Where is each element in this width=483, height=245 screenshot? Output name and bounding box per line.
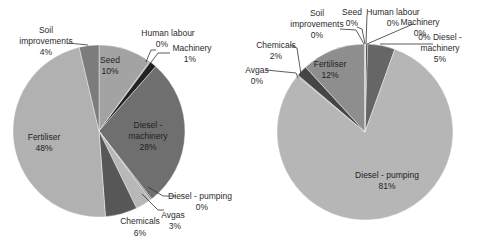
pie-slices xyxy=(277,44,453,220)
data-label-diesel-machinery: 0% Diesel -machinery5% xyxy=(418,32,462,64)
data-value-chemicals: 6% xyxy=(134,228,147,238)
data-label-chemicals: Chemicals xyxy=(120,216,160,226)
data-value-diesel-pumping: 0% xyxy=(196,202,209,212)
leader-line-avgas xyxy=(266,70,298,78)
data-label-machinery: Machinery xyxy=(172,43,212,53)
data-label-seed: Seed10% xyxy=(100,55,120,76)
data-label-seed: Seed0% xyxy=(342,7,362,28)
data-label-chemicals: Chemicals2% xyxy=(256,40,296,61)
data-value-human-labour: 0% xyxy=(156,39,169,49)
pie-charts-canvas: Seed10%Human labour0%Machinery1%Diesel -… xyxy=(0,0,483,245)
data-label-soil-improvements: Soilimprovements0% xyxy=(290,8,343,40)
pie-chart-right: Seed0%Human labour0%Machinery0%0% Diesel… xyxy=(245,7,462,220)
pie-chart-left: Seed10%Human labour0%Machinery1%Diesel -… xyxy=(13,25,232,238)
leader-line-soil-improvements xyxy=(340,29,364,44)
data-value-avgas: 3% xyxy=(169,221,182,231)
leader-line-seed xyxy=(357,27,365,44)
leader-line-human-labour xyxy=(366,15,367,44)
chart-figure: Seed10%Human labour0%Machinery1%Diesel -… xyxy=(0,0,483,245)
data-label-avgas: Avgas xyxy=(161,210,184,220)
data-label-diesel-pumping: Diesel - pumping xyxy=(168,191,232,201)
data-label-human-labour: Human labour xyxy=(141,28,195,38)
data-value-machinery: 1% xyxy=(184,54,197,64)
data-label-avgas: Avgas0% xyxy=(245,65,268,86)
